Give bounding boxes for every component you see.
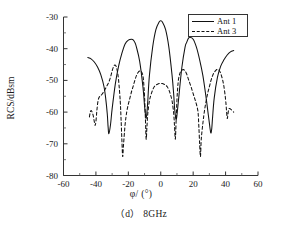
x-tick-label: -40 — [90, 179, 102, 189]
x-tick-label: 20 — [189, 179, 198, 189]
legend-label-ant-1: Ant 1 — [217, 16, 236, 26]
x-tick-label: 60 — [254, 179, 263, 189]
y-tick-label: -30 — [32, 12, 58, 22]
y-tick-label: -50 — [32, 75, 58, 85]
x-tick-label: 0 — [159, 179, 164, 189]
series-line-ant-1 — [88, 21, 234, 134]
x-tick-label: -20 — [122, 179, 134, 189]
x-tick-label: 40 — [221, 179, 230, 189]
y-tick-label: -70 — [32, 139, 58, 149]
x-tick-label: -60 — [58, 179, 70, 189]
legend-label-ant-3: Ant 3 — [217, 26, 236, 36]
y-tick-label: -80 — [32, 171, 58, 181]
y-axis-label: RCS/dBsm — [6, 58, 16, 138]
y-tick-label: -60 — [32, 107, 58, 117]
legend-swatch-solid-icon — [192, 17, 214, 25]
axes-frame — [64, 17, 259, 176]
y-tick-label: -40 — [32, 44, 58, 54]
data-series-layer — [88, 21, 234, 157]
x-tick-marks — [64, 172, 259, 176]
series-line-ant-3 — [89, 65, 233, 157]
legend-entry-ant-3: Ant 3 — [192, 26, 236, 36]
figure-subcaption: （d） 8GHz — [0, 206, 282, 220]
x-axis-label: φ/ (°) — [0, 189, 282, 199]
y-tick-marks — [64, 17, 68, 176]
legend-swatch-dashed-icon — [192, 27, 214, 35]
legend-entry-ant-1: Ant 1 — [192, 16, 236, 26]
figure-root: -30-40-50-60-70-80-60-40-200204060 RCS/d… — [0, 0, 282, 232]
legend: Ant 1 Ant 3 — [188, 14, 248, 37]
